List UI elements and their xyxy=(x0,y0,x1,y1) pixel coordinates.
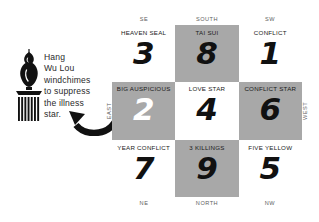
cell-number: 6 xyxy=(260,94,282,125)
cell-number: 2 xyxy=(133,94,155,125)
cell-number: 5 xyxy=(260,153,282,184)
compass-label-ne: NE xyxy=(112,200,176,206)
grid-cell-sw[interactable]: CONFLICT 1 xyxy=(239,25,302,82)
compass-label-west: WEST xyxy=(302,102,308,120)
cell-number: 9 xyxy=(196,153,218,184)
grid-cell-se[interactable]: HEAVEN SEAL 3 xyxy=(112,25,175,82)
cell-number: 7 xyxy=(133,153,155,184)
grid-cell-west[interactable]: CONFLICT STAR 6 xyxy=(239,82,302,139)
compass-label-nw: NW xyxy=(238,200,302,206)
compass-label-se: SE xyxy=(112,16,176,22)
grid-cell-south[interactable]: TAI SUI 8 xyxy=(175,25,238,82)
cell-number: 4 xyxy=(196,94,218,125)
compass-label-north: NORTH xyxy=(175,200,239,206)
flying-star-grid: HEAVEN SEAL 3 TAI SUI 8 CONFLICT 1 BIG A… xyxy=(112,25,302,197)
cell-number: 1 xyxy=(260,38,282,69)
grid-cell-ne[interactable]: YEAR CONFLICT 7 xyxy=(112,140,175,197)
compass-label-south: SOUTH xyxy=(175,16,239,22)
grid-cell-north[interactable]: 3 KILLINGS 9 xyxy=(175,140,238,197)
compass-label-sw: SW xyxy=(238,16,302,22)
flying-star-grid-wrapper: SE SOUTH SW NE NORTH NW EAST WEST HEAVEN… xyxy=(112,16,302,206)
cell-number: 8 xyxy=(196,38,218,69)
grid-cell-nw[interactable]: FIVE YELLOW 5 xyxy=(239,140,302,197)
wu-lou-windchime-icon xyxy=(12,47,46,123)
grid-cell-center[interactable]: LOVE STAR 4 xyxy=(175,82,238,139)
grid-cell-east[interactable]: BIG AUSPICIOUS 2 xyxy=(112,82,175,139)
flying-star-chart: Hang Wu Lou windchimes to suppress the i… xyxy=(0,0,319,222)
cell-number: 3 xyxy=(133,38,155,69)
